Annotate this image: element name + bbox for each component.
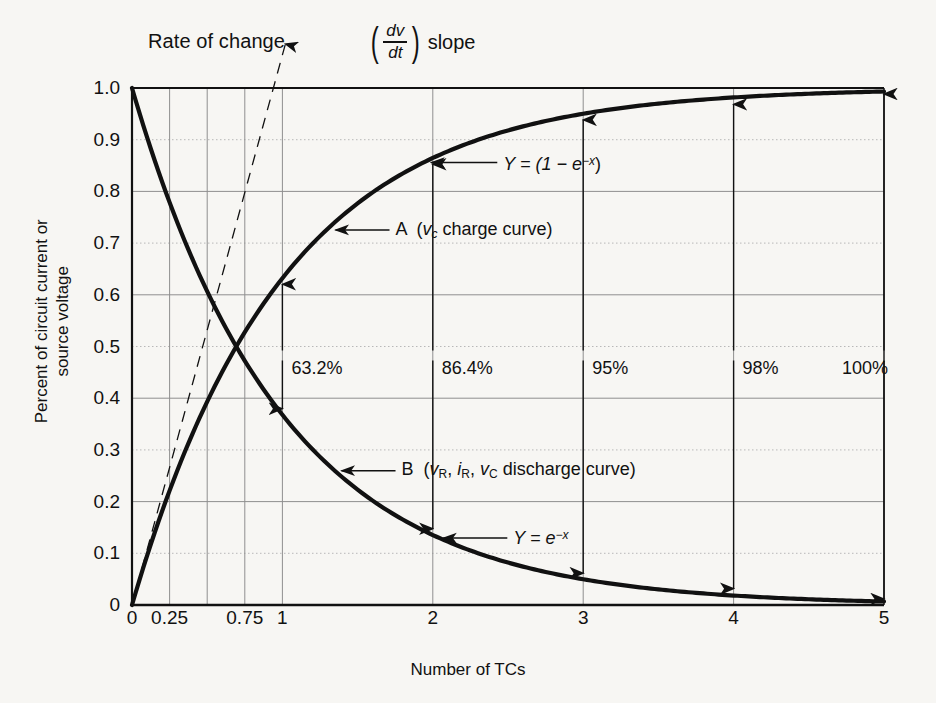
discharge-equation-exponent: −x: [556, 528, 569, 542]
discharge-vc-symbol: v: [480, 459, 489, 479]
charge-curve-label: A: [396, 219, 407, 239]
discharge-equation-prefix: Y = e: [513, 528, 555, 548]
x-axis-tick-label: 0: [127, 608, 138, 627]
x-axis-tick-label: 1: [277, 608, 288, 627]
discharge-curve-text: discharge curve): [503, 459, 636, 479]
discharge-curve-annotation: B (vR, iR, vC discharge curve): [402, 460, 636, 484]
discharge-equation-annotation: Y = e−x: [513, 526, 568, 548]
plot-area: [0, 0, 936, 703]
chart-figure: Rate of change ( dv dt ) slope Percent o…: [0, 0, 936, 703]
discharge-vr-subscript: R: [439, 467, 448, 481]
charge-v-subscript: c: [432, 227, 438, 241]
x-axis-tick-label: 5: [879, 608, 890, 627]
discharge-sep-2: ,: [470, 459, 475, 479]
discharge-ir-subscript: R: [461, 467, 470, 481]
charge-curve-text: charge curve): [443, 219, 553, 239]
x-axis-tick-label: 0.25: [151, 608, 188, 627]
charge-curve-annotation: A (vc charge curve): [396, 220, 553, 244]
discharge-sep-1: ,: [447, 459, 452, 479]
x-axis-tick-label: 2: [428, 608, 439, 627]
charge-v-symbol: v: [423, 219, 432, 239]
charge-equation-suffix: ): [595, 154, 601, 174]
x-axis-tick-label: 4: [728, 608, 739, 627]
x-axis-tick-label: 0.75: [226, 608, 263, 627]
discharge-vr-symbol: v: [430, 459, 439, 479]
discharge-curve-label: B: [402, 459, 414, 479]
charge-equation-exponent: −x: [582, 154, 595, 168]
dv-dt-slope-line: [132, 44, 285, 605]
charge-equation-prefix: Y = (1 − e: [503, 154, 582, 174]
x-axis-tick-label: 3: [578, 608, 589, 627]
discharge-vc-subscript: C: [489, 467, 498, 481]
charge-equation-annotation: Y = (1 − e−x): [503, 152, 601, 174]
